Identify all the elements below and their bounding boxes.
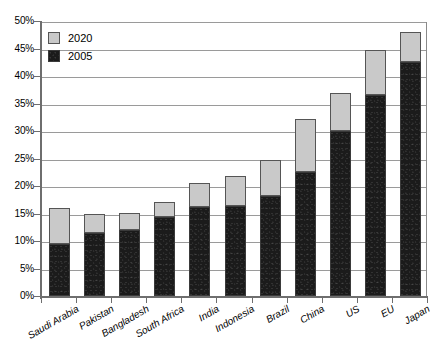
x-axis-tick [146, 298, 147, 303]
x-axis-tick [76, 298, 77, 303]
legend-swatch-2005 [48, 50, 60, 62]
x-axis-tick [181, 298, 182, 303]
bar-segment-2005[interactable] [295, 172, 316, 296]
y-axis-tick-label: 25% [2, 154, 34, 164]
bar-segment-2020[interactable] [260, 160, 281, 196]
bar-group[interactable] [295, 21, 316, 296]
bar-segment-2020[interactable] [330, 93, 351, 131]
stacked-bar-chart: 0%5%10%15%20%25%30%35%40%45%50% Saudi Ar… [0, 0, 443, 340]
y-axis-tick [34, 296, 40, 297]
y-axis-tick [34, 131, 40, 132]
bar-group[interactable] [330, 21, 351, 296]
y-axis-tick-label: 50% [2, 16, 34, 26]
y-axis-tick [34, 214, 40, 215]
x-axis-tick [111, 298, 112, 303]
bar-segment-2020[interactable] [225, 176, 246, 206]
x-axis-tick [216, 298, 217, 303]
bar-segment-2020[interactable] [365, 50, 386, 96]
y-axis-tick-label: 5% [2, 264, 34, 274]
bar-segment-2020[interactable] [84, 214, 105, 233]
x-axis-tick [41, 298, 42, 303]
legend-item-2020: 2020 [48, 30, 118, 46]
bar-segment-2005[interactable] [84, 233, 105, 296]
y-axis-line [40, 21, 42, 299]
bar-group[interactable] [400, 21, 421, 296]
x-axis-tick [322, 298, 323, 303]
bar-segment-2020[interactable] [119, 213, 140, 231]
y-axis-tick [34, 104, 40, 105]
chart-legend: 2020 2005 [48, 30, 118, 66]
bar-segment-2005[interactable] [49, 244, 70, 296]
bar-group[interactable] [225, 21, 246, 296]
y-axis-tick-label: 40% [2, 71, 34, 81]
y-axis-tick-label: 45% [2, 44, 34, 54]
bar-group[interactable] [260, 21, 281, 296]
bar-group[interactable] [189, 21, 210, 296]
y-axis-tick [34, 76, 40, 77]
bar-segment-2005[interactable] [225, 206, 246, 296]
x-axis-tick [357, 298, 358, 303]
bar-segment-2005[interactable] [119, 230, 140, 296]
y-axis-tick-label: 20% [2, 181, 34, 191]
y-axis-tick-label: 30% [2, 126, 34, 136]
bar-segment-2020[interactable] [189, 183, 210, 207]
bar-segment-2020[interactable] [295, 119, 316, 172]
bar-segment-2005[interactable] [330, 131, 351, 296]
x-axis-tick [287, 298, 288, 303]
bar-group[interactable] [119, 21, 140, 296]
y-axis-tick [34, 159, 40, 160]
bar-segment-2005[interactable] [260, 196, 281, 296]
y-axis-tick-label: 35% [2, 99, 34, 109]
y-axis-tick-label: 15% [2, 209, 34, 219]
legend-item-2005: 2005 [48, 48, 118, 64]
x-axis-tick [427, 298, 428, 303]
legend-swatch-2020 [48, 32, 60, 44]
y-axis-tick [34, 269, 40, 270]
bar-segment-2020[interactable] [400, 32, 421, 62]
bar-segment-2005[interactable] [189, 207, 210, 296]
bar-segment-2020[interactable] [49, 208, 70, 244]
y-axis-tick-label: 0% [2, 291, 34, 301]
bar-group[interactable] [365, 21, 386, 296]
x-axis-line [40, 296, 428, 298]
bar-segment-2020[interactable] [154, 202, 175, 217]
bar-segment-2005[interactable] [154, 217, 175, 296]
x-axis-tick [392, 298, 393, 303]
legend-label-2005: 2005 [68, 50, 92, 62]
bar-group[interactable] [154, 21, 175, 296]
y-axis-labels: 0%5%10%15%20%25%30%35%40%45%50% [0, 0, 34, 340]
y-axis-tick [34, 21, 40, 22]
bar-segment-2005[interactable] [400, 62, 421, 296]
y-axis-tick [34, 49, 40, 50]
legend-label-2020: 2020 [68, 32, 92, 44]
x-axis-tick [252, 298, 253, 303]
y-axis-tick [34, 186, 40, 187]
y-axis-tick [34, 241, 40, 242]
y-axis-tick-label: 10% [2, 236, 34, 246]
bar-segment-2005[interactable] [365, 95, 386, 296]
